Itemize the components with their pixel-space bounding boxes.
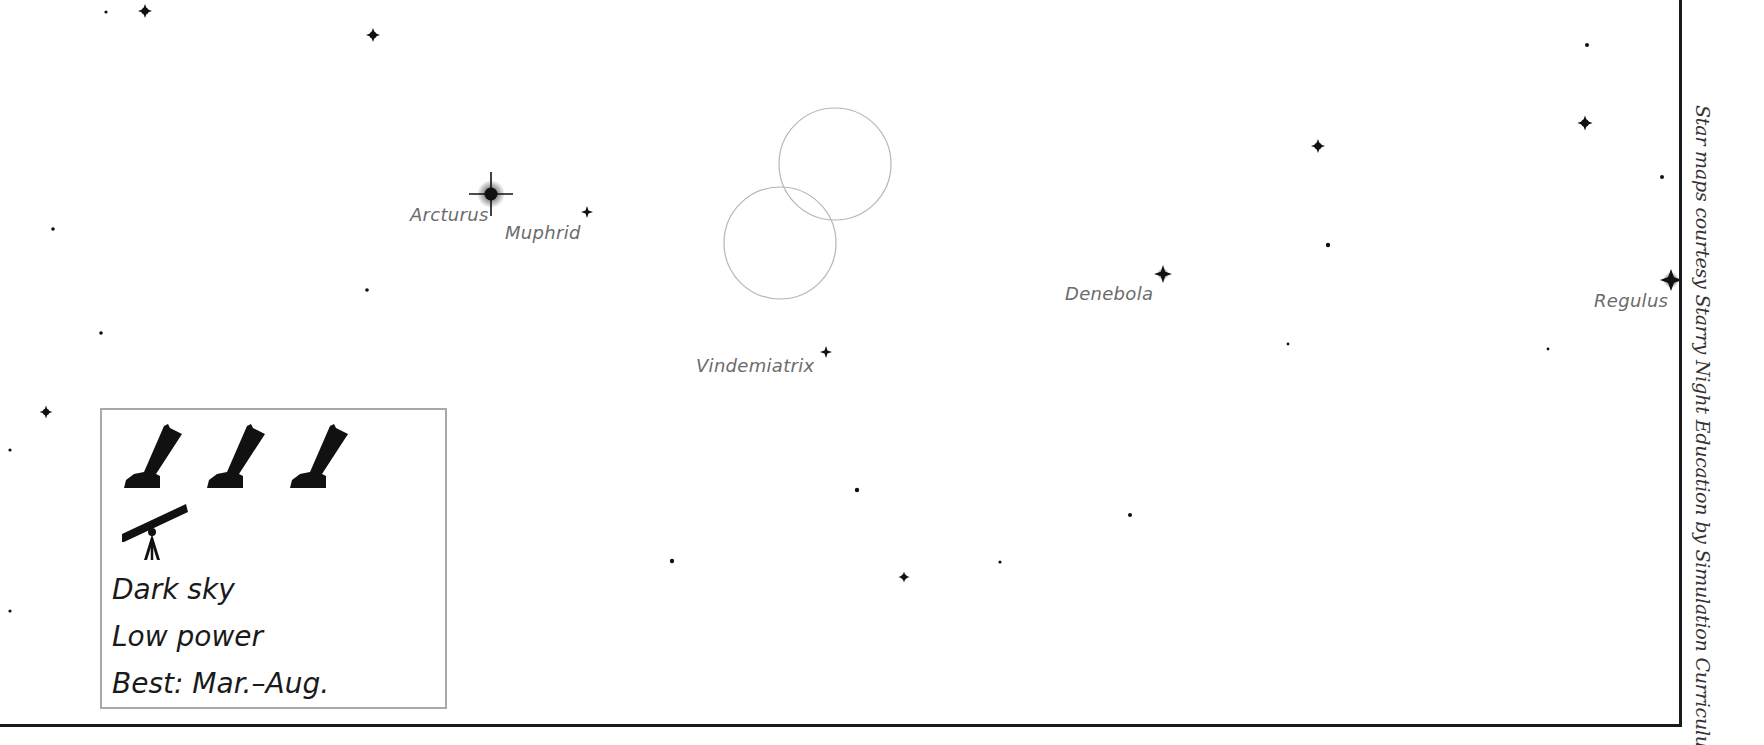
finder-circle — [779, 108, 891, 220]
label-regulus: Regulus — [1594, 290, 1668, 311]
star — [1577, 115, 1592, 130]
star — [51, 227, 55, 231]
star — [40, 406, 53, 419]
star — [104, 10, 107, 13]
legend-dark-sky: Dark sky — [112, 573, 235, 606]
star — [366, 28, 380, 42]
star — [1547, 348, 1550, 351]
finder-circle — [724, 187, 836, 299]
star-muphrid[interactable] — [581, 206, 593, 218]
star — [365, 288, 369, 292]
map-credit: Star maps courtesy Starry Night Educatio… — [1690, 105, 1714, 725]
star — [898, 571, 909, 582]
star — [1660, 175, 1664, 179]
observing-legend: Dark sky Low power Best: Mar.–Aug. — [100, 408, 447, 709]
star — [8, 448, 11, 451]
star — [1585, 43, 1589, 47]
map-frame-right-border — [1679, 0, 1682, 727]
star-denebola[interactable] — [1154, 265, 1172, 283]
label-muphrid: Muphrid — [505, 222, 581, 243]
label-arcturus: Arcturus — [410, 204, 489, 225]
star — [998, 560, 1001, 563]
star — [670, 559, 674, 563]
legend-low-power: Low power — [112, 620, 263, 653]
star — [138, 4, 152, 18]
star-vindemiatrix[interactable] — [820, 346, 832, 358]
legend-best-months: Best: Mar.–Aug. — [112, 667, 329, 700]
dobsonian-telescope-icon — [124, 424, 182, 488]
star — [1311, 139, 1325, 153]
star — [8, 609, 11, 612]
map-frame-bottom-border — [0, 724, 1682, 727]
label-denebola: Denebola — [1065, 283, 1153, 304]
dobsonian-telescope-icon — [290, 424, 348, 488]
dobsonian-telescope-icon — [207, 424, 265, 488]
star — [855, 488, 859, 492]
label-vindemiatrix: Vindemiatrix — [696, 355, 815, 376]
star — [1128, 513, 1132, 517]
star — [1287, 343, 1290, 346]
finder-circles — [724, 108, 891, 299]
star — [1326, 243, 1330, 247]
refractor-telescope-icon — [122, 504, 188, 560]
star — [99, 331, 103, 335]
